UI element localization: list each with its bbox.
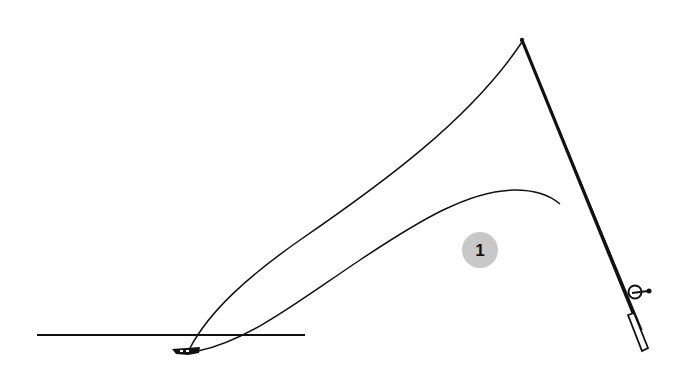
lure-icon: [172, 347, 200, 355]
fishing-diagram: 1: [0, 0, 689, 378]
upper-line: [190, 42, 522, 348]
callout-1-badge: 1: [462, 232, 498, 268]
callout-1-label: 1: [475, 241, 484, 260]
fishing-rod: [520, 38, 648, 351]
reel-icon: [629, 286, 652, 299]
lower-line: [198, 190, 560, 351]
